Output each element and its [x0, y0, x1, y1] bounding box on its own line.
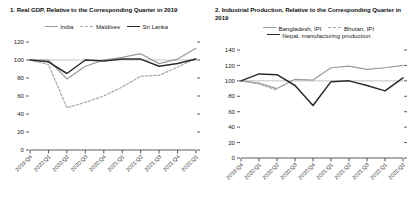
legend-row-2: Nepal, manufacturing production [223, 32, 414, 39]
chart-svg-left: 0204060801001202019:Q42020:Q12020:Q22020… [0, 34, 207, 189]
series-line-nepal-manufacturing-production [241, 74, 403, 106]
y-axis-tick-label: 60 [228, 108, 235, 115]
line-swatch-icon [127, 26, 140, 27]
y-axis-tick-label: 100 [14, 57, 25, 64]
panel-title-left: 1. Real GDP, Relative to the Correspondi… [0, 0, 207, 14]
x-axis-tick-label: 2022:Q2 [387, 161, 406, 180]
x-axis-tick-label: 2020:Q3 [279, 161, 298, 180]
y-axis-tick-label: 80 [17, 75, 24, 82]
x-axis-tick-label: 2020:Q4 [297, 161, 316, 180]
x-axis-tick-label: 2019:Q4 [225, 161, 244, 180]
legend-label: Nepal, manufacturing production [282, 32, 370, 39]
y-axis-tick-label: 140 [225, 46, 236, 53]
plot-area-right: 0204060801001201402019:Q42020:Q12020:Q22… [207, 42, 414, 197]
line-swatch-icon [267, 34, 280, 35]
series-line-bhutan-ipi [241, 81, 277, 90]
x-axis-tick-label: 2021:Q4 [162, 154, 181, 173]
dashed-line-swatch-icon [328, 27, 341, 28]
x-axis-tick-label: 2021:Q3 [351, 161, 370, 180]
x-axis-tick-label: 2021:Q1 [315, 161, 334, 180]
legend-label: India [60, 23, 73, 30]
line-swatch-icon [45, 26, 58, 27]
x-axis-tick-label: 2021:Q1 [106, 154, 125, 173]
y-axis-tick-label: 40 [228, 123, 235, 130]
x-axis-tick-label: 2019:Q4 [14, 154, 33, 173]
legend-item-nepal: Nepal, manufacturing production [267, 32, 371, 39]
x-axis-tick-label: 2020:Q1 [32, 154, 51, 173]
line-swatch-icon [263, 27, 276, 28]
chart-svg-right: 0204060801001201402019:Q42020:Q12020:Q22… [207, 42, 414, 197]
x-axis-tick-label: 2020:Q3 [69, 154, 88, 173]
figure-container: 1. Real GDP, Relative to the Correspondi… [0, 0, 414, 212]
x-axis-tick-label: 2022:Q1 [180, 154, 199, 173]
x-axis-tick-label: 2020:Q4 [88, 154, 107, 173]
y-axis-tick-label: 0 [232, 154, 236, 161]
legend-item-sri-lanka: Sri Lanka [127, 23, 168, 30]
panel-industrial-production: 2. Industrial Production, Relative to th… [207, 0, 414, 212]
y-axis-tick-label: 120 [225, 61, 236, 68]
x-axis-tick-label: 2020:Q2 [51, 154, 70, 173]
legend-right: Bangladesh, IPI Bhutan, IPI Nepal, manuf… [207, 25, 414, 39]
legend-row-1: Bangladesh, IPI Bhutan, IPI [223, 25, 414, 32]
panel-title-right: 2. Industrial Production, Relative to th… [207, 0, 414, 23]
plot-area-left: 0204060801001202019:Q42020:Q12020:Q22020… [0, 34, 207, 189]
series-line-bangladesh-ipi [241, 65, 403, 88]
legend-left: India Maldives Sri Lanka [0, 23, 207, 30]
y-axis-tick-label: 20 [17, 129, 24, 136]
legend-item-bangladesh: Bangladesh, IPI [263, 25, 322, 32]
legend-item-india: India [45, 23, 74, 30]
dashed-line-swatch-icon [80, 26, 93, 27]
legend-label: Bhutan, IPI [344, 25, 374, 32]
legend-item-maldives: Maldives [80, 23, 120, 30]
y-axis-tick-label: 60 [17, 93, 24, 100]
legend-item-bhutan: Bhutan, IPI [328, 25, 374, 32]
x-axis-tick-label: 2020:Q2 [261, 161, 280, 180]
legend-label: Sri Lanka [143, 23, 169, 30]
x-axis-tick-label: 2020:Q1 [243, 161, 262, 180]
x-axis-tick-label: 2021:Q2 [333, 161, 352, 180]
y-axis-tick-label: 40 [17, 111, 24, 118]
x-axis-tick-label: 2021:Q3 [143, 154, 162, 173]
x-axis-tick-label: 2022:Q1 [369, 161, 388, 180]
y-axis-tick-label: 120 [14, 39, 25, 46]
legend-label: Bangladesh, IPI [278, 25, 321, 32]
y-axis-tick-label: 0 [21, 147, 25, 154]
series-line-india [30, 49, 196, 80]
panel-real-gdp: 1. Real GDP, Relative to the Correspondi… [0, 0, 207, 212]
y-axis-tick-label: 20 [228, 139, 235, 146]
y-axis-tick-label: 100 [225, 77, 236, 84]
legend-label: Maldives [96, 23, 120, 30]
x-axis-tick-label: 2021:Q2 [125, 154, 144, 173]
y-axis-tick-label: 80 [228, 92, 235, 99]
